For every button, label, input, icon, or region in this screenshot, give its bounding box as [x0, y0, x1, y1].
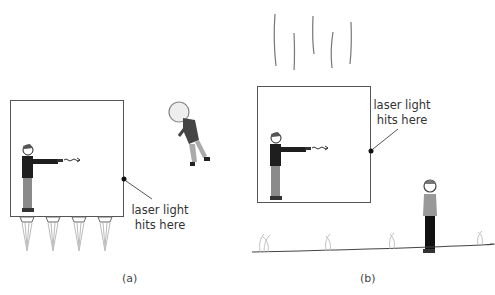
- ground-line-icon: [250, 230, 495, 255]
- annotation-b: laser light hits here: [370, 98, 434, 128]
- caption-b: (b): [360, 272, 376, 285]
- laser-hit-dot-icon: [367, 125, 407, 155]
- laser-hit-dot-icon: [120, 175, 160, 205]
- floating-astronaut-icon: [165, 100, 225, 175]
- annotation-b-line2: hits here: [370, 113, 434, 128]
- annotation-a-line1: laser light: [128, 203, 192, 218]
- caption-a: (a): [122, 272, 137, 285]
- annotation-b-line1: laser light: [370, 98, 434, 113]
- observer-with-laser-icon: [262, 128, 342, 208]
- observer-with-laser-icon: [14, 140, 94, 220]
- rocket-engines-icon: [18, 217, 118, 257]
- falling-motion-lines-icon: [265, 10, 365, 75]
- annotation-a-line2: hits here: [128, 218, 192, 233]
- annotation-a: laser light hits here: [128, 203, 192, 233]
